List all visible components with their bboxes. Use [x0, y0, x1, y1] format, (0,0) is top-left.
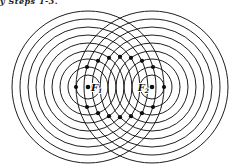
caption: y Steps 1-3. [0, 0, 120, 6]
ellipse-intersection-dot [151, 65, 155, 69]
ellipse-intersection-dot [74, 85, 78, 89]
ellipse-intersection-dot [129, 56, 133, 60]
ellipse-intersection-dot [140, 111, 144, 115]
ellipse-intersection-dot [140, 59, 144, 63]
ellipse-intersection-dot [129, 114, 133, 118]
focus-2-dot [150, 85, 155, 90]
two-source-concentric-circles-ellipse-diagram: F1F2 [0, 0, 232, 167]
ellipse-intersection-dot [96, 59, 100, 63]
ellipse-intersection-dot [151, 105, 155, 109]
ellipse-intersection-dot [118, 55, 122, 59]
ellipse-intersection-dot [85, 65, 89, 69]
ellipse-intersection-dot [107, 114, 111, 118]
caption-text: y Steps 1-3. [0, 0, 120, 6]
ellipse-intersection-dot [118, 115, 122, 119]
textbook-figure: y Steps 1-3. F1F2 [0, 0, 232, 167]
ellipse-intersection-dot [85, 105, 89, 109]
ellipse-intersection-dot [107, 56, 111, 60]
ellipse-intersection-dot [162, 85, 166, 89]
focus-1-dot [86, 85, 91, 90]
ellipse-intersection-dot [96, 111, 100, 115]
